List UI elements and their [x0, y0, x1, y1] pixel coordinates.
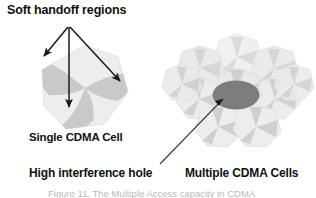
cdma-handoff-figure: Soft handoff regions Single CDMA Cell Hi… [0, 0, 316, 198]
label-single-cdma-cell: Single CDMA Cell [29, 131, 123, 143]
label-multiple-cdma-cells: Multiple CDMA Cells [185, 166, 298, 180]
label-soft-handoff-regions: Soft handoff regions [7, 3, 126, 17]
single-cdma-cell [38, 45, 131, 130]
arrow-handoff-left [44, 27, 68, 56]
cluster-cell [233, 104, 281, 147]
multiple-cdma-cells-cluster [162, 34, 314, 147]
figure-caption-cropped: Figure 11. The Multiple Access capacity … [48, 188, 278, 198]
cluster-cell [274, 64, 314, 101]
label-high-interference-hole: High interference hole [29, 166, 152, 180]
high-interference-hole [213, 81, 259, 109]
